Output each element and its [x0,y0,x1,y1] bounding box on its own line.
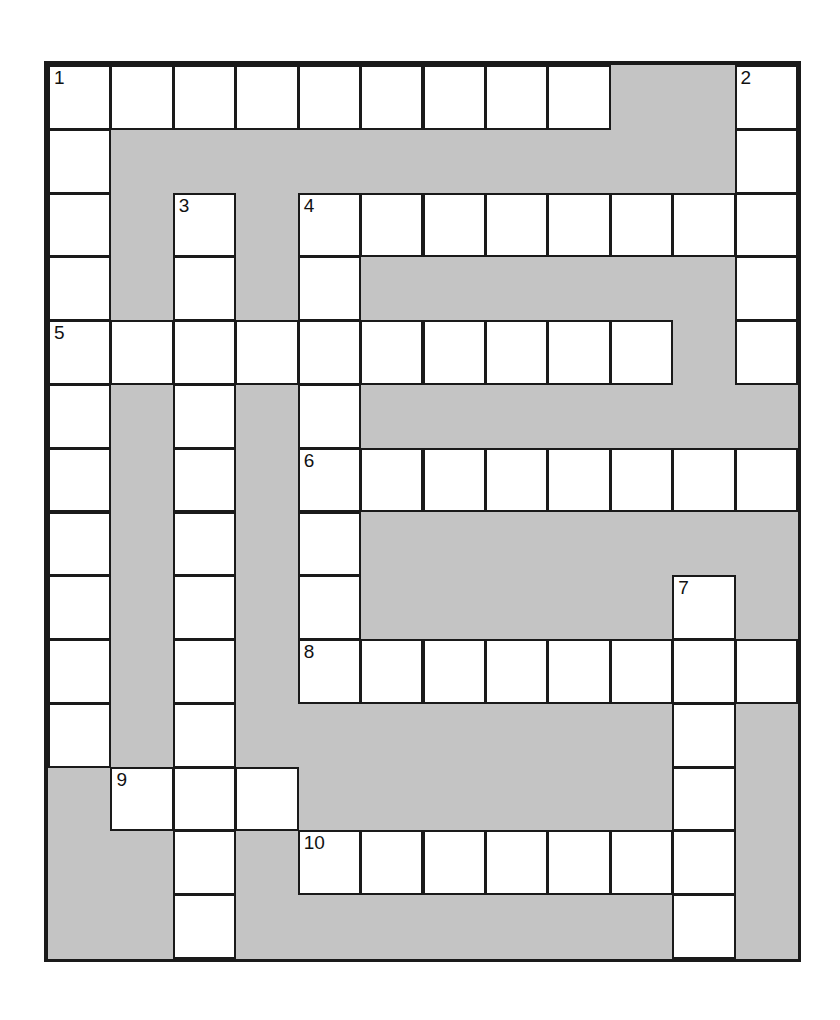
crossword-cell[interactable] [235,767,298,832]
crossword-block [610,512,673,577]
crossword-block [423,894,486,959]
crossword-cell[interactable] [547,193,610,258]
crossword-block [485,894,548,959]
crossword-cell[interactable] [173,830,236,895]
crossword-cell[interactable] [423,65,486,130]
crossword-cell[interactable] [485,65,548,130]
crossword-cell[interactable] [48,384,111,449]
crossword-cell[interactable] [173,767,236,832]
crossword-cell[interactable]: 1 [48,65,111,130]
crossword-cell[interactable] [735,448,798,513]
crossword-cell[interactable] [173,512,236,577]
crossword-block [423,256,486,321]
crossword-cell[interactable] [672,639,735,704]
crossword-cell[interactable]: 8 [298,639,361,704]
crossword-cell[interactable] [360,830,423,895]
crossword-cell[interactable]: 3 [173,193,236,258]
crossword-cell[interactable] [110,65,173,130]
crossword-block [547,575,610,640]
crossword-cell[interactable] [48,129,111,194]
crossword-block [485,129,548,194]
crossword-cell[interactable] [298,65,361,130]
crossword-block [235,703,298,768]
crossword-cell[interactable] [423,193,486,258]
crossword-cell[interactable] [298,320,361,385]
crossword-cell[interactable] [173,65,236,130]
crossword-cell[interactable] [735,256,798,321]
crossword-cell[interactable]: 5 [48,320,111,385]
crossword-cell[interactable] [48,639,111,704]
crossword-cell[interactable] [48,703,111,768]
crossword-cell[interactable] [485,639,548,704]
crossword-cell[interactable] [735,320,798,385]
crossword-cell[interactable] [173,639,236,704]
crossword-cell[interactable] [672,193,735,258]
crossword-cell[interactable] [610,639,673,704]
crossword-cell[interactable] [173,256,236,321]
crossword-cell[interactable] [173,448,236,513]
crossword-cell[interactable]: 10 [298,830,361,895]
crossword-cell[interactable] [672,830,735,895]
crossword-cell[interactable] [735,129,798,194]
crossword-cell[interactable]: 4 [298,193,361,258]
crossword-block [610,256,673,321]
crossword-cell[interactable] [298,512,361,577]
crossword-cell[interactable] [298,384,361,449]
crossword-cell[interactable] [547,639,610,704]
crossword-cell[interactable] [360,65,423,130]
crossword-cell[interactable] [173,703,236,768]
crossword-cell[interactable] [110,320,173,385]
crossword-cell[interactable] [360,639,423,704]
crossword-cell[interactable] [48,193,111,258]
crossword-cell[interactable] [610,448,673,513]
crossword-cell[interactable] [173,894,236,959]
crossword-cell[interactable] [610,320,673,385]
crossword-cell[interactable] [48,448,111,513]
crossword-cell[interactable]: 7 [672,575,735,640]
crossword-cell[interactable] [360,193,423,258]
crossword-cell[interactable]: 9 [110,767,173,832]
crossword-cell[interactable] [485,448,548,513]
crossword-block [48,830,111,895]
crossword-cell[interactable] [360,320,423,385]
crossword-cell[interactable]: 2 [735,65,798,130]
crossword-cell[interactable] [610,193,673,258]
crossword-block [360,575,423,640]
crossword-cell[interactable] [423,830,486,895]
crossword-cell[interactable] [360,448,423,513]
crossword-cell[interactable] [485,830,548,895]
crossword-cell[interactable] [547,320,610,385]
puzzle-stage: 12345678910 [0,0,840,1020]
crossword-cell[interactable] [672,703,735,768]
crossword-cell[interactable]: 6 [298,448,361,513]
crossword-cell[interactable] [48,256,111,321]
crossword-cell[interactable] [485,193,548,258]
crossword-cell[interactable] [672,448,735,513]
crossword-cell[interactable] [48,512,111,577]
crossword-cell[interactable] [48,575,111,640]
crossword-cell[interactable] [423,448,486,513]
crossword-cell[interactable] [672,894,735,959]
crossword-cell[interactable] [173,320,236,385]
crossword-cell[interactable] [423,320,486,385]
crossword-block [485,256,548,321]
crossword-cell[interactable] [173,575,236,640]
crossword-cell[interactable] [423,639,486,704]
crossword-grid[interactable]: 12345678910 [48,65,797,958]
crossword-cell[interactable] [547,830,610,895]
crossword-block [735,830,798,895]
crossword-cell[interactable] [173,384,236,449]
crossword-cell[interactable] [547,65,610,130]
crossword-cell[interactable] [735,193,798,258]
crossword-cell[interactable] [610,830,673,895]
crossword-block [110,894,173,959]
crossword-cell[interactable] [735,639,798,704]
crossword-frame: 12345678910 [44,61,801,962]
crossword-cell[interactable] [485,320,548,385]
crossword-cell[interactable] [298,256,361,321]
crossword-cell[interactable] [298,575,361,640]
crossword-cell[interactable] [235,320,298,385]
crossword-cell[interactable] [672,767,735,832]
crossword-cell[interactable] [547,448,610,513]
crossword-cell[interactable] [235,65,298,130]
